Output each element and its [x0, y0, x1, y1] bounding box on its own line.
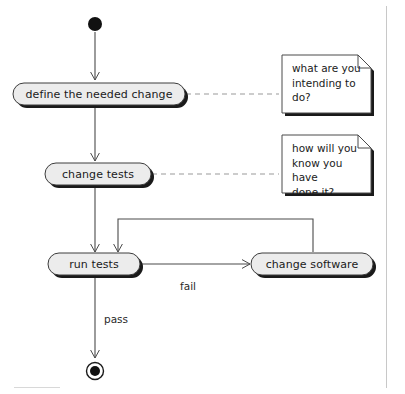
- activity-diagram-canvas: define the needed change change tests ru…: [0, 0, 405, 394]
- diagram-vector-layer: [0, 0, 405, 394]
- action-node-change-tests[interactable]: [45, 163, 154, 188]
- final-node[interactable]: [87, 363, 104, 380]
- initial-node[interactable]: [88, 17, 102, 31]
- action-node-define[interactable]: [13, 83, 188, 108]
- note-shape-2[interactable]: [282, 135, 374, 196]
- edge-change-software-to-run-tests: [118, 219, 313, 252]
- action-node-change-software[interactable]: [251, 253, 376, 278]
- action-node-run-tests[interactable]: [48, 253, 143, 278]
- note-shape-1[interactable]: [282, 55, 374, 116]
